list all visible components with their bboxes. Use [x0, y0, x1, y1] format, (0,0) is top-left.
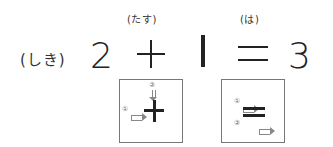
plus-stroke-guide: ② ① [119, 79, 183, 143]
step-2-marker: ② [234, 120, 240, 127]
step-1-marker: ① [122, 106, 128, 113]
step-1-marker: ① [234, 98, 240, 105]
result: 3 [288, 38, 311, 74]
plus-sign [137, 40, 165, 68]
equals-reading: (は) [240, 11, 259, 26]
equals-sign [238, 44, 268, 64]
right-arrow-icon [131, 115, 142, 121]
operand-2 [201, 35, 205, 67]
plus-reading: (たす) [127, 11, 157, 26]
right-arrow-icon [259, 129, 270, 135]
step-2-marker: ② [149, 82, 155, 89]
equation-label: (しき) [20, 48, 66, 69]
equals-stroke-guide: ① ② [221, 79, 285, 143]
operand-1: 2 [90, 38, 113, 74]
